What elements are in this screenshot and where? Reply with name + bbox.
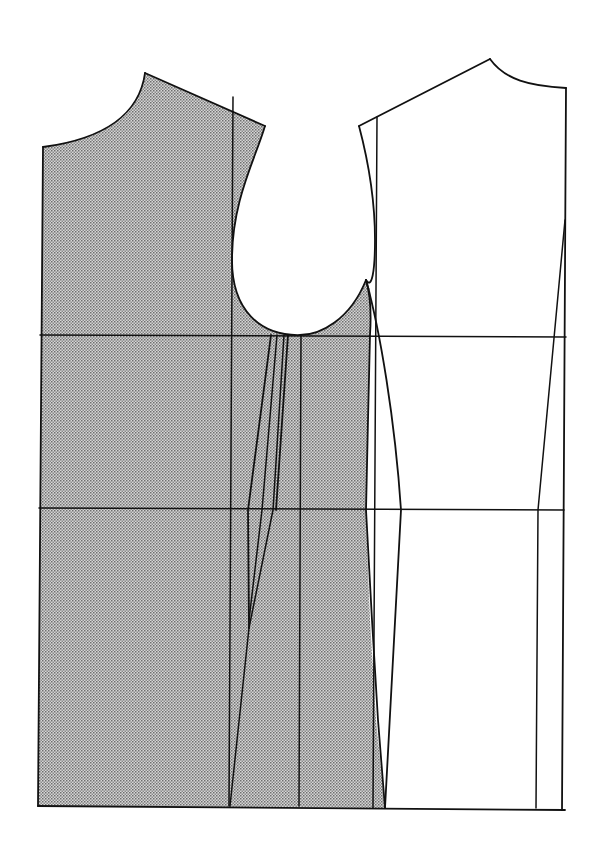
back-armhole-curve — [359, 126, 375, 283]
back-shoulder-line — [359, 59, 490, 126]
front-panel-fill — [38, 73, 385, 808]
pattern-diagram: Bodice pattern draft — [0, 0, 596, 848]
front-panel — [38, 73, 385, 808]
back-neckline — [490, 59, 566, 88]
back-dart-leg — [536, 220, 565, 808]
center-back-line — [562, 88, 566, 810]
